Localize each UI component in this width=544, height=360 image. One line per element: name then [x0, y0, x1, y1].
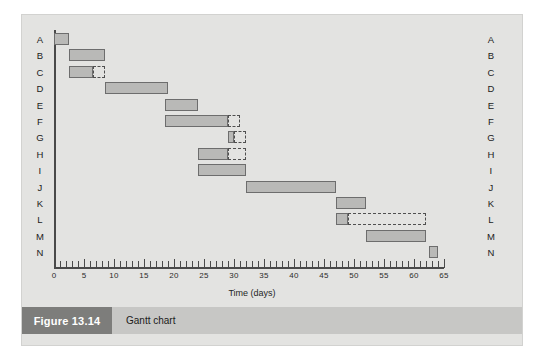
x-axis-tick-label: 20 [169, 271, 178, 280]
gantt-bar-m [366, 230, 426, 242]
gantt-bar-n [429, 246, 438, 258]
task-label-h-right: H [484, 148, 498, 159]
x-axis-minor-tick [420, 261, 421, 268]
x-axis-minor-tick [132, 261, 133, 268]
gantt-float-bar-h [228, 148, 246, 160]
task-label-c-right: C [484, 66, 498, 77]
x-axis-tick-label: 5 [82, 271, 87, 280]
x-axis-minor-tick [90, 261, 91, 268]
x-axis-minor-tick [192, 261, 193, 268]
x-axis-minor-tick [426, 261, 427, 268]
x-axis-tick-label: 30 [229, 271, 238, 280]
x-axis-minor-tick [402, 261, 403, 268]
task-label-m-left: M [33, 230, 47, 241]
x-axis-minor-tick [96, 261, 97, 268]
task-label-l-left: L [33, 214, 47, 225]
task-label-e-right: E [484, 99, 498, 110]
gantt-float-bar-f [228, 115, 240, 127]
gantt-bar-a [54, 33, 69, 45]
gantt-bar-b [69, 49, 105, 61]
x-axis-tick-label: 10 [109, 271, 118, 280]
figure-caption-bar: Figure 13.14 Gantt chart [22, 307, 522, 334]
x-axis-major-tick [294, 259, 295, 268]
x-axis-major-tick [54, 259, 55, 268]
task-label-f-right: F [484, 116, 498, 127]
task-label-i-right: I [484, 165, 498, 176]
gantt-bar-i [198, 164, 246, 176]
x-axis-major-tick [174, 259, 175, 268]
x-axis-minor-tick [168, 261, 169, 268]
x-axis-minor-tick [150, 261, 151, 268]
x-axis-minor-tick [240, 261, 241, 268]
gantt-bar-j [246, 181, 336, 193]
x-axis-minor-tick [186, 261, 187, 268]
x-axis-minor-tick [120, 261, 121, 268]
x-axis-tick-label: 55 [379, 271, 388, 280]
x-axis-tick-label: 45 [319, 271, 328, 280]
task-label-l-right: L [484, 214, 498, 225]
x-axis-major-tick [84, 259, 85, 268]
x-axis-minor-tick [210, 261, 211, 268]
gantt-bar-e [165, 99, 198, 111]
x-axis-minor-tick [78, 261, 79, 268]
x-axis-minor-tick [270, 261, 271, 268]
x-axis-minor-tick [252, 261, 253, 268]
figure-number: Figure 13.14 [22, 307, 112, 334]
x-axis-minor-tick [432, 261, 433, 268]
x-axis-major-tick [144, 259, 145, 268]
x-axis-minor-tick [318, 261, 319, 268]
x-axis-minor-tick [372, 261, 373, 268]
x-axis-major-tick [114, 259, 115, 268]
task-label-k-left: K [33, 198, 47, 209]
x-axis-minor-tick [102, 261, 103, 268]
figure-title: Gantt chart [126, 307, 175, 334]
x-axis-minor-tick [330, 261, 331, 268]
x-axis-tick-label: 40 [289, 271, 298, 280]
gantt-bar-d [105, 82, 168, 94]
figure-page: 05101520253035404550556065 ABCDEFGHIJKLM… [0, 0, 544, 360]
gantt-bar-k [336, 197, 366, 209]
figure-panel: 05101520253035404550556065 ABCDEFGHIJKLM… [22, 15, 522, 345]
x-axis-major-tick [414, 259, 415, 268]
gantt-bar-c [69, 66, 93, 78]
task-label-c-left: C [33, 66, 47, 77]
gantt-float-bar-l [348, 213, 426, 225]
task-label-g-left: G [33, 132, 47, 143]
x-axis-minor-tick [216, 261, 217, 268]
x-axis-minor-tick [156, 261, 157, 268]
x-axis-minor-tick [390, 261, 391, 268]
x-axis-minor-tick [66, 261, 67, 268]
x-axis-tick-label: 35 [259, 271, 268, 280]
x-axis-major-tick [264, 259, 265, 268]
x-axis-minor-tick [222, 261, 223, 268]
x-axis-minor-tick [138, 261, 139, 268]
x-axis-minor-tick [180, 261, 181, 268]
x-axis-minor-tick [438, 261, 439, 268]
x-axis-minor-tick [360, 261, 361, 268]
x-axis-minor-tick [282, 261, 283, 268]
task-label-j-left: J [33, 181, 47, 192]
x-axis-minor-tick [342, 261, 343, 268]
y-axis-line [54, 30, 56, 268]
x-axis-major-tick [324, 259, 325, 268]
x-axis-minor-tick [306, 261, 307, 268]
gantt-bar-f [165, 115, 228, 127]
x-axis-minor-tick [312, 261, 313, 268]
gantt-bar-l [336, 213, 348, 225]
x-axis-minor-tick [288, 261, 289, 268]
x-axis-minor-tick [228, 261, 229, 268]
x-axis-tick-label: 60 [409, 271, 418, 280]
x-axis-tick-label: 15 [139, 271, 148, 280]
x-axis-minor-tick [246, 261, 247, 268]
x-axis-minor-tick [276, 261, 277, 268]
gantt-float-bar-g [234, 131, 246, 143]
task-label-d-left: D [33, 83, 47, 94]
x-axis-minor-tick [162, 261, 163, 268]
x-axis-minor-tick [126, 261, 127, 268]
x-axis-major-tick [384, 259, 385, 268]
task-label-b-left: B [33, 50, 47, 61]
x-axis-major-tick [354, 259, 355, 268]
x-axis-minor-tick [396, 261, 397, 268]
x-axis-minor-tick [60, 261, 61, 268]
x-axis-tick-label: 65 [439, 271, 448, 280]
